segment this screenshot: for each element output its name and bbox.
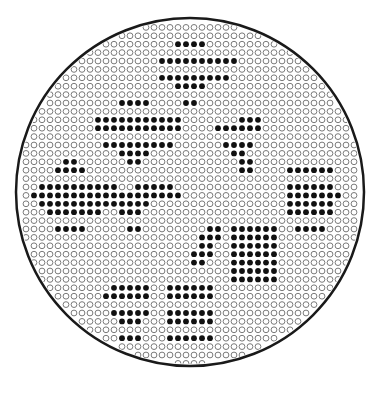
filled-dot: [119, 285, 125, 291]
filled-dot: [199, 335, 205, 341]
filled-dot: [135, 100, 141, 106]
filled-dot: [119, 209, 125, 215]
filled-dot: [55, 184, 61, 190]
filled-dot: [199, 285, 205, 291]
filled-dot: [175, 117, 181, 123]
filled-dot: [239, 117, 245, 123]
filled-dot: [175, 310, 181, 316]
filled-dot: [175, 293, 181, 299]
filled-dot: [239, 251, 245, 257]
filled-dot: [295, 226, 301, 232]
filled-dot: [183, 319, 189, 325]
filled-dot: [303, 209, 309, 215]
filled-dot: [303, 201, 309, 207]
filled-dot: [255, 268, 261, 274]
filled-dot: [143, 125, 149, 131]
filled-dot: [111, 125, 117, 131]
filled-dot: [167, 142, 173, 148]
filled-dot: [183, 58, 189, 64]
filled-dot: [175, 335, 181, 341]
filled-dot: [95, 117, 101, 123]
filled-dot: [247, 260, 253, 266]
filled-dot: [143, 142, 149, 148]
filled-dot: [127, 117, 133, 123]
filled-dot: [199, 251, 205, 257]
filled-dot: [63, 159, 69, 165]
filled-dot: [215, 58, 221, 64]
filled-dot: [167, 335, 173, 341]
filled-dot: [103, 125, 109, 131]
filled-dot: [135, 209, 141, 215]
filled-dot: [327, 167, 333, 173]
filled-dot: [127, 226, 133, 232]
filled-dot: [47, 184, 53, 190]
filled-dot: [135, 293, 141, 299]
filled-dot: [143, 184, 149, 190]
filled-dot: [63, 184, 69, 190]
filled-dot: [103, 293, 109, 299]
filled-dot: [167, 125, 173, 131]
filled-dot: [127, 201, 133, 207]
filled-dot: [303, 226, 309, 232]
filled-dot: [199, 75, 205, 81]
filled-dot: [199, 319, 205, 325]
filled-dot: [135, 117, 141, 123]
filled-dot: [135, 335, 141, 341]
filled-dot: [135, 142, 141, 148]
filled-dot: [191, 75, 197, 81]
filled-dot: [167, 285, 173, 291]
filled-dot: [319, 167, 325, 173]
filled-dot: [255, 235, 261, 241]
filled-dot: [295, 201, 301, 207]
filled-dot: [255, 243, 261, 249]
filled-dot: [191, 100, 197, 106]
filled-dot: [303, 184, 309, 190]
filled-dot: [327, 209, 333, 215]
filled-dot: [135, 310, 141, 316]
filled-dot: [143, 193, 149, 199]
filled-dot: [127, 293, 133, 299]
filled-dot: [39, 193, 45, 199]
filled-dot: [175, 193, 181, 199]
filled-dot: [95, 125, 101, 131]
filled-dot: [47, 193, 53, 199]
filled-dot: [183, 285, 189, 291]
filled-dot: [111, 117, 117, 123]
filled-dot: [95, 184, 101, 190]
filled-dot: [55, 209, 61, 215]
filled-dot: [271, 243, 277, 249]
filled-dot: [167, 58, 173, 64]
filled-dot: [231, 125, 237, 131]
filled-dot: [135, 226, 141, 232]
filled-dot: [311, 184, 317, 190]
filled-dot: [119, 319, 125, 325]
filled-dot: [207, 319, 213, 325]
filled-dot: [183, 83, 189, 89]
filled-dot: [247, 117, 253, 123]
filled-dot: [207, 310, 213, 316]
filled-dot: [231, 235, 237, 241]
filled-dot: [239, 151, 245, 157]
filled-dot: [239, 167, 245, 173]
filled-dot: [143, 285, 149, 291]
filled-dot: [287, 201, 293, 207]
filled-dot: [135, 285, 141, 291]
filled-dot: [271, 226, 277, 232]
filled-dot: [199, 41, 205, 47]
filled-dot: [63, 201, 69, 207]
filled-dot: [223, 142, 229, 148]
filled-dot: [239, 243, 245, 249]
filled-dot: [183, 100, 189, 106]
filled-dot: [111, 293, 117, 299]
filled-dot: [271, 251, 277, 257]
filled-dot: [167, 310, 173, 316]
filled-dot: [327, 193, 333, 199]
filled-dot: [231, 260, 237, 266]
filled-dot: [183, 293, 189, 299]
filled-dot: [263, 268, 269, 274]
filled-dot: [119, 335, 125, 341]
filled-dot: [191, 285, 197, 291]
filled-dot: [119, 142, 125, 148]
filled-dot: [71, 226, 77, 232]
filled-dot: [247, 251, 253, 257]
